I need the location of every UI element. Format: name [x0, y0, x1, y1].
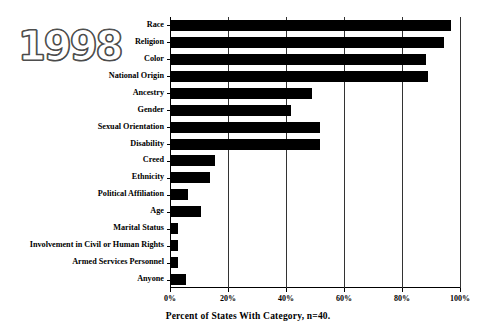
x-axis-title: Percent of States With Category, n=40.: [0, 311, 496, 321]
bar-row: Religion: [170, 34, 460, 51]
chart-figure: 1998 0%20%40%60%80%100% RaceReligionColo…: [0, 0, 496, 334]
bar: [171, 20, 451, 31]
x-tick: [170, 288, 171, 292]
bar: [171, 155, 215, 166]
gridline-100: [460, 17, 461, 288]
x-tick-label: 40%: [266, 294, 306, 303]
category-label: Gender: [138, 104, 164, 116]
category-label: Sexual Orientation: [98, 121, 164, 133]
y-tick: [167, 161, 170, 162]
category-label: Color: [144, 53, 164, 65]
y-tick: [167, 263, 170, 264]
x-tick: [286, 288, 287, 292]
category-label: Religion: [135, 36, 164, 48]
bar: [171, 223, 178, 234]
bar-row: Creed: [170, 153, 460, 170]
y-tick: [167, 178, 170, 179]
bar: [171, 139, 320, 150]
bar-row: Involvement in Civil or Human Rights: [170, 237, 460, 254]
bar: [171, 240, 178, 251]
bar: [171, 37, 444, 48]
x-tick: [344, 288, 345, 292]
bar-row: Ancestry: [170, 85, 460, 102]
x-tick-label: 0%: [150, 294, 190, 303]
category-label: Anyone: [137, 273, 164, 285]
y-tick: [167, 42, 170, 43]
bar: [171, 274, 186, 285]
bar: [171, 172, 210, 183]
bar: [171, 54, 426, 65]
category-label: Race: [147, 19, 164, 31]
x-tick: [228, 288, 229, 292]
bar-row: Age: [170, 203, 460, 220]
y-tick: [167, 127, 170, 128]
bar: [171, 206, 201, 217]
bar-row: Armed Services Personnel: [170, 254, 460, 271]
bar: [171, 88, 312, 99]
bar: [171, 122, 320, 133]
y-tick: [167, 229, 170, 230]
category-label: Marital Status: [113, 222, 164, 234]
x-tick-label: 100%: [440, 294, 480, 303]
y-tick: [167, 195, 170, 196]
bar-row: Sexual Orientation: [170, 119, 460, 136]
category-label: Political Affiliation: [98, 188, 164, 200]
y-tick: [167, 59, 170, 60]
bar: [171, 105, 291, 116]
bar-row: Gender: [170, 102, 460, 119]
y-tick: [167, 76, 170, 77]
bar-row: Race: [170, 17, 460, 34]
category-label: Involvement in Civil or Human Rights: [30, 239, 164, 251]
y-tick: [167, 280, 170, 281]
x-tick-label: 80%: [382, 294, 422, 303]
category-label: Armed Services Personnel: [72, 256, 164, 268]
x-tick: [402, 288, 403, 292]
y-tick: [167, 246, 170, 247]
x-tick-label: 20%: [208, 294, 248, 303]
category-label: Disability: [130, 138, 164, 150]
y-tick: [167, 110, 170, 111]
y-tick: [167, 144, 170, 145]
category-label: Ethnicity: [132, 171, 164, 183]
plot-area: 0%20%40%60%80%100% RaceReligionColorNati…: [170, 17, 460, 288]
bar-row: Ethnicity: [170, 169, 460, 186]
category-label: Age: [150, 205, 164, 217]
y-tick: [167, 212, 170, 213]
bar-row: Marital Status: [170, 220, 460, 237]
x-tick: [460, 288, 461, 292]
bar: [171, 71, 428, 82]
bar: [171, 189, 188, 200]
year-watermark: 1998: [18, 26, 121, 66]
bar-row: Color: [170, 51, 460, 68]
bar: [171, 257, 178, 268]
category-label: Ancestry: [133, 87, 164, 99]
bar-row: Political Affiliation: [170, 186, 460, 203]
category-label: Creed: [143, 154, 164, 166]
y-tick: [167, 93, 170, 94]
x-tick-label: 60%: [324, 294, 364, 303]
y-tick: [167, 25, 170, 26]
bar-row: National Origin: [170, 68, 460, 85]
bar-row: Disability: [170, 136, 460, 153]
bar-row: Anyone: [170, 271, 460, 288]
category-label: National Origin: [109, 70, 164, 82]
